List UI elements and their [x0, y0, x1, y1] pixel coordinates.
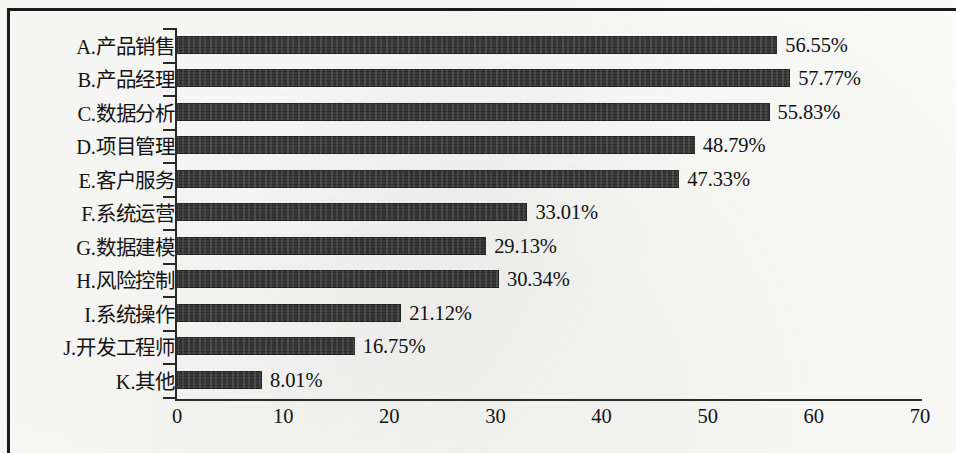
y-axis-line	[175, 28, 177, 400]
category-label: H.风险控制	[76, 264, 175, 294]
y-axis-tick	[163, 296, 175, 298]
category-label: B.产品经理	[77, 63, 175, 93]
bar-row: J.开发工程师16.75%	[0, 330, 956, 364]
x-axis-line	[175, 399, 922, 401]
bar-value-label: 8.01%	[270, 368, 322, 391]
bar-value-label: 33.01%	[535, 201, 598, 224]
bar	[177, 36, 777, 54]
x-axis-tick-label: 70	[910, 405, 931, 428]
x-axis-tick-label: 40	[591, 405, 612, 428]
category-label: D.项目管理	[76, 130, 175, 160]
chart-page: A.产品销售56.55%B.产品经理57.77%C.数据分析55.83%D.项目…	[0, 0, 956, 453]
y-axis-tick	[163, 95, 175, 97]
bar-row: E.客户服务47.33%	[0, 162, 956, 196]
category-label: A.产品销售	[76, 30, 175, 60]
category-label: E.客户服务	[79, 164, 175, 194]
x-axis-tick-label: 30	[485, 405, 506, 428]
bar-row: H.风险控制30.34%	[0, 263, 956, 297]
bar	[177, 69, 790, 87]
y-axis-tick	[163, 129, 175, 131]
bar-value-label: 55.83%	[778, 100, 841, 123]
category-label: I.系统操作	[84, 298, 175, 328]
y-axis-tick	[163, 229, 175, 231]
x-axis-tick-label: 10	[273, 405, 294, 428]
bar-value-label: 56.55%	[785, 33, 848, 56]
bar-value-label: 29.13%	[494, 234, 557, 257]
y-axis-tick	[163, 397, 175, 399]
bar-value-label: 21.12%	[409, 301, 472, 324]
x-axis-tick-label: 60	[804, 405, 825, 428]
bar	[177, 103, 770, 121]
y-axis-tick	[163, 196, 175, 198]
bar	[177, 304, 401, 322]
bar-chart-plot-area: A.产品销售56.55%B.产品经理57.77%C.数据分析55.83%D.项目…	[0, 0, 956, 453]
category-label: F.系统运营	[81, 197, 175, 227]
bar-row: C.数据分析55.83%	[0, 95, 956, 129]
bar	[177, 136, 695, 154]
bar-value-label: 30.34%	[507, 268, 570, 291]
bar-row: D.项目管理48.79%	[0, 129, 956, 163]
category-label: C.数据分析	[77, 97, 175, 127]
bar	[177, 270, 499, 288]
bar-row: B.产品经理57.77%	[0, 62, 956, 96]
y-axis-tick	[163, 62, 175, 64]
bar-row: K.其他8.01%	[0, 363, 956, 397]
bar-value-label: 57.77%	[798, 67, 861, 90]
bar-row: I.系统操作21.12%	[0, 296, 956, 330]
x-axis-tick-label: 20	[379, 405, 400, 428]
y-axis-tick	[163, 330, 175, 332]
bar-row: F.系统运营33.01%	[0, 196, 956, 230]
bar	[177, 337, 355, 355]
bar-value-label: 16.75%	[363, 335, 426, 358]
x-axis-tick-label: 50	[697, 405, 718, 428]
y-axis-tick	[163, 263, 175, 265]
bar-value-label: 47.33%	[687, 167, 750, 190]
y-axis-tick	[163, 28, 175, 30]
x-axis-tick-label: 0	[172, 405, 182, 428]
bar	[177, 237, 486, 255]
y-axis-tick	[163, 162, 175, 164]
bar-row: G.数据建模29.13%	[0, 229, 956, 263]
category-label: G.数据建模	[76, 231, 175, 261]
bar-value-label: 48.79%	[703, 134, 766, 157]
bar	[177, 170, 679, 188]
y-axis-tick	[163, 363, 175, 365]
category-label: J.开发工程师	[63, 331, 175, 361]
bar-row: A.产品销售56.55%	[0, 28, 956, 62]
bar	[177, 203, 527, 221]
bar	[177, 371, 262, 389]
category-label: K.其他	[116, 365, 175, 395]
